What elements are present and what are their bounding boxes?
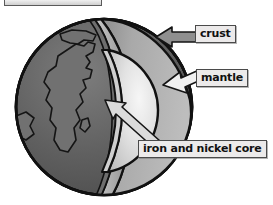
label-mantle: mantle (196, 69, 248, 87)
earth-cutaway-figure: crust mantle iron and nickel core (0, 0, 273, 205)
label-crust-text: crust (200, 27, 231, 40)
label-mantle-text: mantle (201, 71, 243, 84)
cropped-title-box (4, 0, 102, 6)
label-iron-and-nickel-core: iron and nickel core (138, 140, 267, 158)
label-core-text: iron and nickel core (143, 142, 262, 155)
label-crust: crust (195, 25, 236, 43)
